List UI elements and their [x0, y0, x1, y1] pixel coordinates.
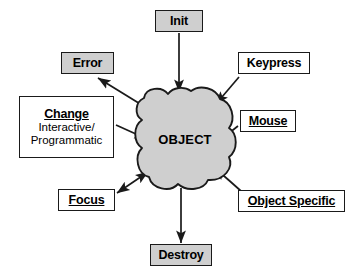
node-change-sublabel-line1: Interactive/ — [38, 121, 94, 134]
node-init-label: Init — [170, 14, 188, 28]
object-event-diagram: OBJECT Init Error Keypress Change Intera… — [0, 0, 356, 279]
node-destroy[interactable]: Destroy — [150, 244, 212, 266]
node-keypress-label: Keypress — [247, 56, 302, 70]
node-init[interactable]: Init — [155, 10, 203, 32]
node-change-label: Change — [44, 107, 89, 121]
node-mouse-label: Mouse — [249, 114, 288, 128]
object-cloud-shape — [132, 84, 238, 194]
node-error[interactable]: Error — [61, 52, 114, 74]
node-keypress[interactable]: Keypress — [238, 52, 310, 74]
node-focus[interactable]: Focus — [58, 189, 115, 211]
node-focus-label: Focus — [69, 193, 105, 207]
node-object-specific[interactable]: Object Specific — [238, 190, 345, 212]
node-error-label: Error — [73, 56, 103, 70]
node-object-specific-label: Object Specific — [248, 194, 335, 208]
node-change-sublabel-line2: Programmatic — [31, 134, 103, 147]
node-mouse[interactable]: Mouse — [240, 110, 296, 132]
node-change[interactable]: Change Interactive/ Programmatic — [19, 96, 114, 158]
node-destroy-label: Destroy — [158, 248, 203, 262]
